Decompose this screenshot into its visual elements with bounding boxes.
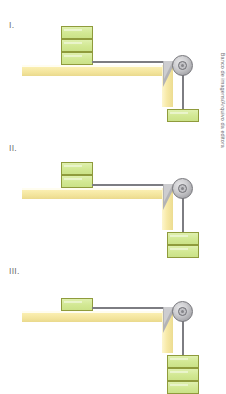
figure-panel-3: III. [0, 254, 219, 377]
pulley-assembly-3 [163, 301, 193, 335]
table-surface-2 [22, 188, 173, 199]
top-caption-text [10, 0, 210, 6]
figure-panel-2: II. [0, 131, 219, 254]
hanging-block [167, 368, 199, 381]
hanging-block [167, 355, 199, 368]
figure-panel-1: I. [0, 8, 219, 131]
image-credit-text: Banco de imagens/Arquivo da editora [220, 53, 226, 148]
horizontal-string-3 [92, 307, 172, 309]
table-surface-1 [22, 65, 173, 76]
hanging-block [167, 232, 199, 245]
hanging-block [167, 109, 199, 122]
pulley-assembly-1 [163, 55, 193, 89]
table-block [61, 298, 93, 311]
figure-label-2: II. [9, 143, 17, 153]
horizontal-string-2 [92, 184, 172, 186]
table-block [61, 26, 93, 39]
pulley-assembly-2 [163, 178, 193, 212]
hanging-block [167, 381, 199, 394]
figure-label-1: I. [9, 20, 14, 30]
table-block [61, 162, 93, 175]
table-block [61, 175, 93, 188]
horizontal-string-1 [92, 61, 172, 63]
table-block [61, 39, 93, 52]
table-block [61, 52, 93, 65]
table-surface-3 [22, 311, 173, 322]
figure-label-3: III. [9, 266, 20, 276]
